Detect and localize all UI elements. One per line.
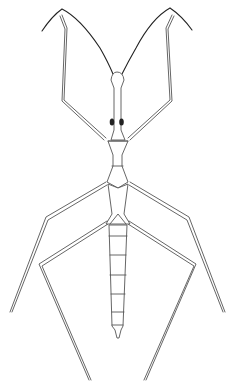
midleg-left xyxy=(10,182,107,312)
insect-drawing xyxy=(0,0,238,387)
abdomen xyxy=(109,225,127,338)
foreleg-left xyxy=(42,9,113,140)
head xyxy=(111,72,125,140)
midleg-right xyxy=(129,182,225,312)
thorax xyxy=(106,184,130,224)
eye-right xyxy=(119,119,124,126)
insect-illustration xyxy=(0,0,238,387)
prothorax xyxy=(107,141,128,188)
foreleg-right xyxy=(122,8,192,140)
hindleg-left xyxy=(39,221,108,380)
hindleg-right xyxy=(128,221,196,380)
eye-left xyxy=(110,119,115,126)
